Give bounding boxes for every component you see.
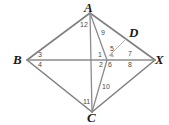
angle-label-4: 4 — [38, 61, 42, 68]
vertex-label-D: D — [129, 26, 138, 39]
angle-label-2: 2 — [99, 61, 103, 68]
angle-label-8: 8 — [128, 61, 132, 68]
vertex-label-B: B — [13, 53, 22, 66]
angle-label-7: 7 — [128, 50, 132, 57]
angle-label-11: 11 — [83, 98, 90, 105]
angle-label-5: 5 — [110, 45, 114, 52]
vertex-label-A: A — [84, 1, 93, 14]
angle-label-6: 6 — [108, 61, 112, 68]
angle-label-3: 3 — [38, 51, 42, 58]
figure-canvas — [0, 0, 169, 125]
geometry-figure: A B C X D 1 2 3 4 5 6 7 8 9 10 11 12 — [0, 0, 169, 125]
vertex-label-C: C — [87, 111, 96, 124]
angle-label-9: 9 — [101, 29, 105, 36]
angle-label-12: 12 — [80, 21, 88, 28]
segment-A-C-diagonal — [90, 13, 92, 112]
angle-label-1: 1 — [98, 51, 102, 58]
angle-label-10: 10 — [102, 83, 110, 90]
arrowhead-D-to-P — [109, 52, 114, 57]
vertex-label-X: X — [155, 53, 164, 66]
